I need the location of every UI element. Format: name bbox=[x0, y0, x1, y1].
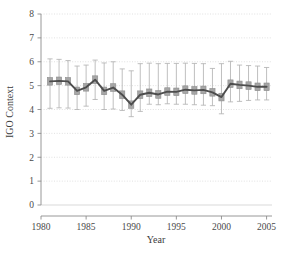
y-tick-label-7: 7 bbox=[29, 33, 34, 43]
x-tick-label-1995: 1995 bbox=[167, 222, 186, 232]
chart-figure: 012345678 198019851990199520002005 IGO C… bbox=[0, 0, 291, 254]
y-tick-label-8: 8 bbox=[29, 9, 34, 19]
y-tick-label-3: 3 bbox=[29, 129, 34, 139]
igo-context-line-chart: 012345678 198019851990199520002005 IGO C… bbox=[0, 0, 291, 254]
x-tick-label-2000: 2000 bbox=[212, 222, 231, 232]
y-tick-label-4: 4 bbox=[29, 105, 34, 115]
y-axis-title: IGO Context bbox=[4, 86, 15, 138]
y-tick-label-5: 5 bbox=[29, 81, 34, 91]
y-tick-label-1: 1 bbox=[29, 176, 34, 186]
y-tick-label-2: 2 bbox=[29, 153, 34, 163]
y-tick-label-0: 0 bbox=[29, 200, 34, 210]
x-tick-label-2005: 2005 bbox=[257, 222, 276, 232]
x-tick-label-1990: 1990 bbox=[122, 222, 141, 232]
x-tick-label-1985: 1985 bbox=[77, 222, 96, 232]
y-tick-label-6: 6 bbox=[29, 57, 34, 67]
x-tick-label-1980: 1980 bbox=[32, 222, 51, 232]
x-axis-title: Year bbox=[147, 234, 166, 245]
